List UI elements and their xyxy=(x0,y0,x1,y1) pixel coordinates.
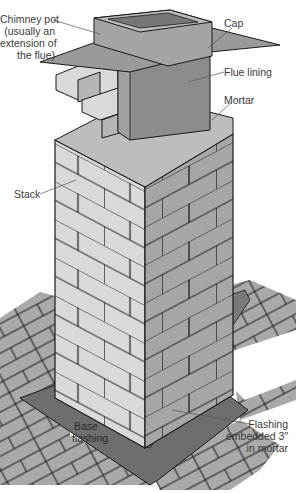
label-flashing-embedded-line2: embedded 3" xyxy=(226,430,288,442)
label-chimney-pot: Chimney pot (usually an extension of the… xyxy=(0,13,55,61)
label-chimney-pot-line4: the flue) xyxy=(0,49,55,61)
label-flashing-embedded: Flashing embedded 3" in mortar xyxy=(226,418,288,454)
label-flashing-embedded-line3: in mortar xyxy=(226,442,288,454)
label-flue-lining: Flue lining xyxy=(224,66,272,78)
label-base-flashing-line2: flashing xyxy=(72,432,108,444)
stack-right-face xyxy=(145,134,233,448)
leader-chimney-pot xyxy=(53,20,100,34)
label-cap: Cap xyxy=(224,17,243,29)
label-chimney-pot-line1: Chimney pot xyxy=(0,13,55,25)
stack-left-face xyxy=(55,140,145,448)
label-chimney-pot-line3: extension of xyxy=(0,37,55,49)
label-flashing-embedded-line1: Flashing xyxy=(226,418,288,430)
label-chimney-pot-line2: (usually an xyxy=(0,25,55,37)
label-base-flashing-line1: Base xyxy=(72,420,108,432)
label-mortar: Mortar xyxy=(224,94,254,106)
chimney-diagram: Chimney pot (usually an extension of the… xyxy=(0,0,296,493)
label-stack: Stack xyxy=(14,188,40,200)
label-base-flashing: Base flashing xyxy=(72,420,108,444)
